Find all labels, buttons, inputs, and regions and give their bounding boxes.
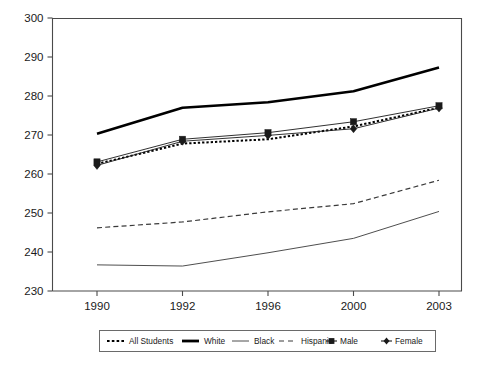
y-tick-label: 250: [24, 207, 43, 219]
legend-label: All Students: [129, 336, 173, 346]
series-line-black: [97, 211, 439, 266]
y-tick-label: 280: [24, 90, 43, 102]
chart-legend: All StudentsWhiteBlackHispanicMaleFemale: [100, 331, 436, 352]
marker-diamond: [350, 125, 357, 133]
y-tick-label: 230: [24, 285, 43, 297]
line-chart: 230240250260270280290300 199019921996200…: [0, 0, 489, 366]
x-tick-label: 2003: [426, 300, 452, 312]
y-tick-label: 240: [24, 246, 43, 258]
y-tick-label: 300: [24, 12, 43, 24]
y-tick-label: 260: [24, 168, 43, 180]
legend-label: Black: [254, 336, 275, 346]
x-axis-ticks: 19901992199620002003: [84, 291, 452, 312]
chart-figure: 230240250260270280290300 199019921996200…: [0, 0, 489, 366]
y-axis-ticks: 230240250260270280290300: [24, 12, 52, 297]
x-tick-label: 1996: [255, 300, 281, 312]
x-tick-label: 1992: [170, 300, 196, 312]
legend-label: Male: [340, 336, 358, 346]
series-line-hispanic: [97, 180, 439, 228]
x-tick-label: 2000: [341, 300, 367, 312]
data-series-group: [94, 68, 443, 267]
x-tick-label: 1990: [84, 300, 110, 312]
series-line-white: [97, 68, 439, 134]
y-tick-label: 290: [24, 51, 43, 63]
marker-square: [350, 119, 356, 125]
legend-label: White: [204, 336, 226, 346]
legend-label: Female: [395, 336, 423, 346]
legend-marker-square: [329, 338, 335, 344]
y-tick-label: 270: [24, 129, 43, 141]
plot-axes: [53, 18, 463, 291]
